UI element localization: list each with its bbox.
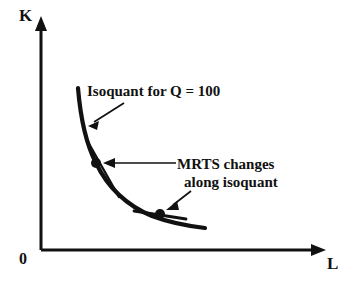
isoquant-callout-arrow-group	[88, 103, 124, 130]
mrts-annotation-label: MRTS changes along isoquant	[177, 155, 278, 191]
x-axis-label: L	[327, 255, 338, 272]
origin-label: 0	[19, 251, 27, 267]
tangent-line-steep	[88, 142, 119, 197]
isoquant-callout-arrowhead	[88, 121, 99, 130]
mrts-callout-arrow-2-group	[166, 191, 191, 210]
mrts-annotation-line-2: along isoquant	[177, 173, 278, 191]
axes-group	[35, 16, 326, 256]
mrts-callout-arrowhead-2	[166, 201, 179, 210]
isoquant-diagram: K L 0 Isoquant for Q = 100 MRTS changes …	[0, 0, 356, 285]
y-axis-label: K	[19, 7, 32, 24]
point-lower-marker	[155, 209, 165, 219]
mrts-annotation-line-1: MRTS changes	[177, 156, 274, 172]
mrts-callout-arrow-1-group	[103, 158, 176, 168]
y-axis-arrowhead	[35, 16, 47, 31]
point-upper-marker	[91, 158, 101, 168]
x-axis-arrowhead	[311, 244, 326, 256]
isoquant-callout-arrow-shaft	[94, 103, 124, 122]
mrts-callout-arrowhead-1	[103, 158, 115, 168]
isoquant-annotation-label: Isoquant for Q = 100	[87, 84, 220, 99]
diagram-canvas	[0, 0, 356, 285]
